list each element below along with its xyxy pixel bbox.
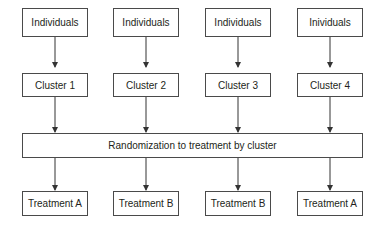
treatment-box-2: Treatment B [113,191,179,216]
individuals-box-3: Individuals [205,8,271,37]
treatment-box-3: Treatment B [205,191,271,216]
randomization-box: Randomization to treatment by cluster [22,133,363,158]
individuals-box-4: Inividuals [297,8,363,37]
individuals-box-2: Individuals [113,8,179,37]
individuals-box-1: Individuals [22,8,88,37]
cluster-box-3: Cluster 3 [205,73,271,97]
treatment-box-4: Treatment A [297,191,363,216]
cluster-box-2: Cluster 2 [113,73,179,97]
cluster-box-4: Cluster 4 [297,73,363,97]
treatment-box-1: Treatment A [22,191,88,216]
cluster-box-1: Cluster 1 [22,73,88,97]
